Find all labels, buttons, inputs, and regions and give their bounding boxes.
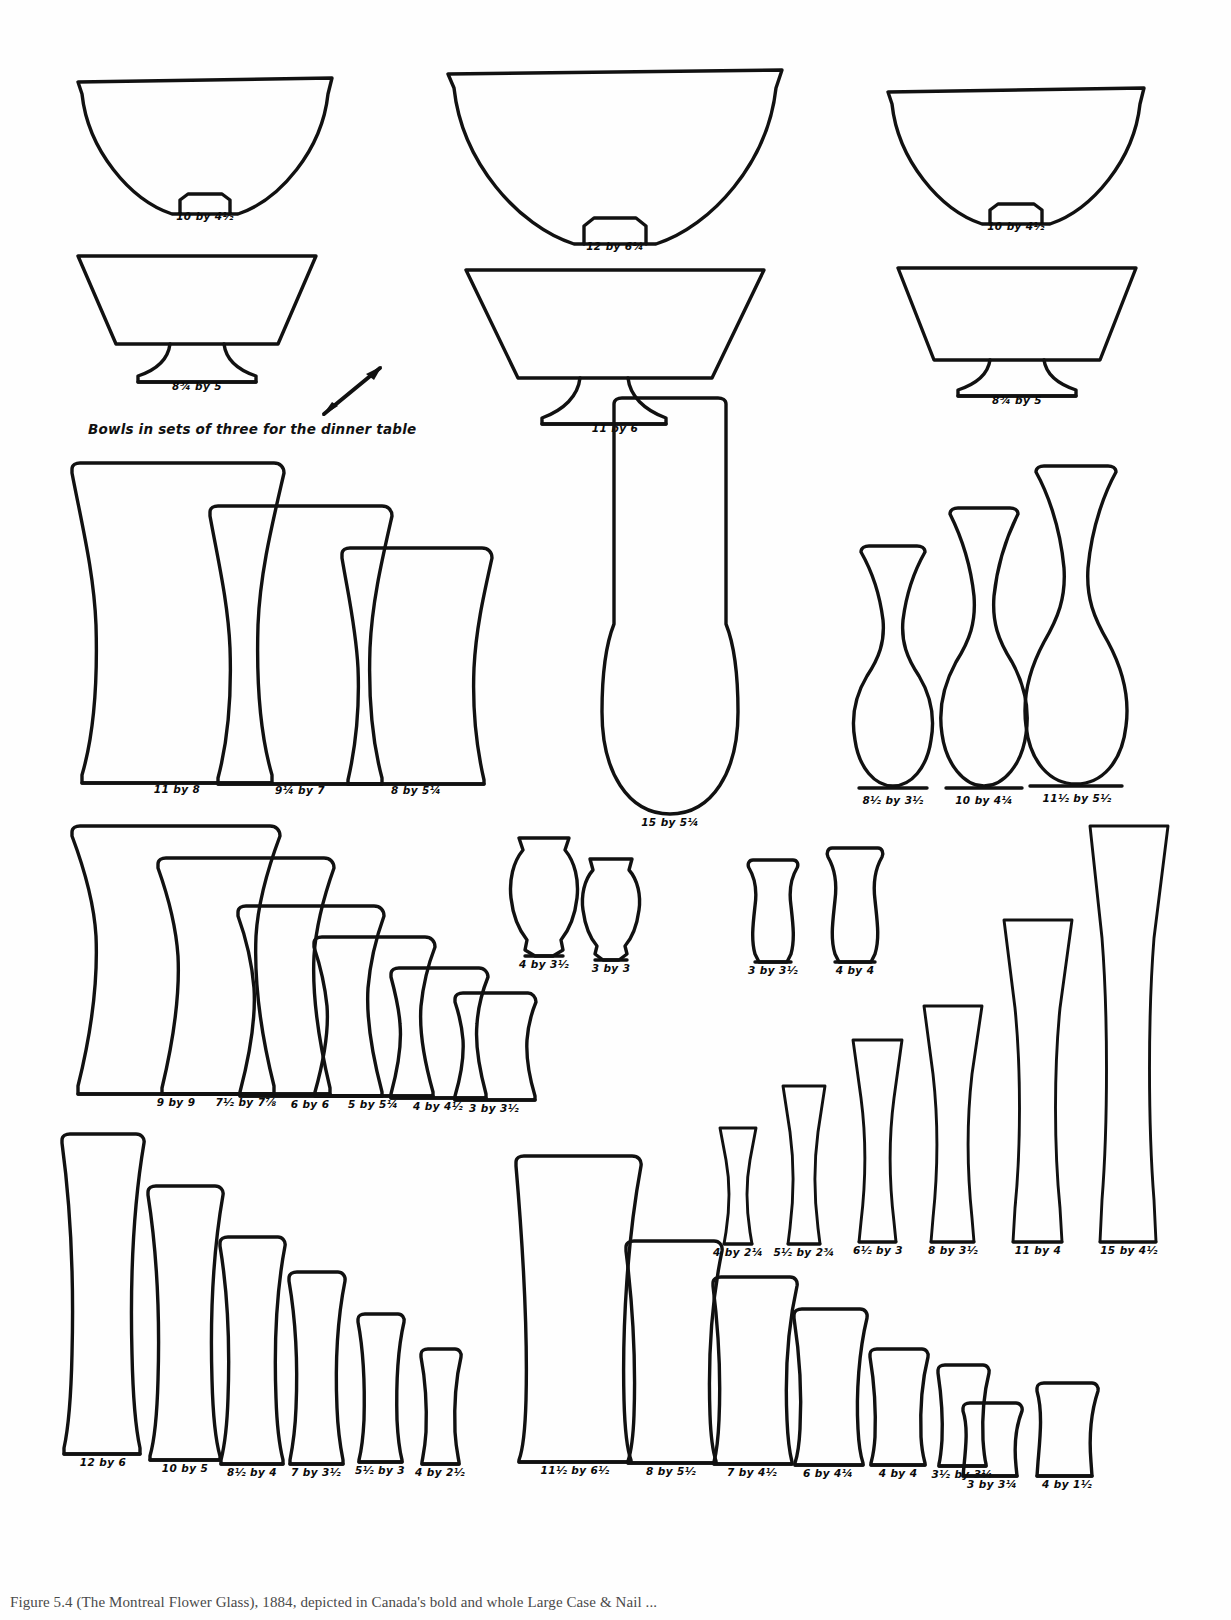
- vessel-spill: 15 by 4½: [1078, 818, 1180, 1256]
- vessel-bowl-footed: 8¾ by 5: [72, 248, 322, 388]
- vessel-label: 10 by 4½: [176, 210, 234, 222]
- vessel-label: 4 by 3½: [519, 958, 569, 970]
- vessel-label: 4 by 4: [879, 1467, 918, 1479]
- vessel-celery-large: 8 by 5¼: [332, 540, 500, 794]
- vessel-tumbler: 5½ by 3: [348, 1310, 412, 1468]
- vessel-label: 5½ by 2¾: [773, 1246, 834, 1258]
- vessel-label: 8 by 5½: [646, 1465, 696, 1477]
- vessel-label: 4 by 2½: [415, 1466, 465, 1478]
- vessel-slender: 11½ by 5½: [1018, 458, 1136, 802]
- vessel-bowl-round: 10 by 4½: [880, 82, 1152, 232]
- vessel-label: 8½ by 3½: [862, 794, 923, 806]
- vessel-label: 8½ by 4: [227, 1466, 277, 1478]
- vessel-small-pot: 3 by 3½: [735, 850, 811, 972]
- vessel-label: 10 by 4¼: [955, 794, 1013, 806]
- vessel-label: 8¾ by 5: [172, 380, 222, 392]
- vessel-squat: 4 by 1½: [1024, 1378, 1110, 1484]
- vessel-label: 11½ by 6½: [541, 1464, 610, 1476]
- vessel-label: 4 by 4: [836, 964, 875, 976]
- vessel-label: 9¼ by 7: [275, 784, 325, 796]
- vessel-small-pot: 4 by 3½: [505, 828, 583, 968]
- vessel-label: 12 by 6: [80, 1456, 126, 1468]
- vessel-label: 6 by 4¼: [803, 1467, 853, 1479]
- vessel-label: 10 by 4½: [987, 220, 1045, 232]
- vessel-label: 10 by 5: [162, 1462, 208, 1474]
- vessel-label: 15 by 5¼: [641, 816, 699, 828]
- vessel-bowl-round: 10 by 4½: [70, 72, 340, 222]
- vessel-label: 11 by 4: [1015, 1244, 1061, 1256]
- illustration-sheet: 10 by 4½ 8¾ by 5 Bowls in sets of three …: [0, 0, 1231, 1620]
- vessel-tumbler: 4 by 4: [860, 1345, 936, 1469]
- vessel-small-pot: 3 by 3: [577, 850, 645, 968]
- vessel-bowl-round: 12 by 6¼: [440, 62, 790, 254]
- figure-caption: Figure 5.4 (The Montreal Flower Glass), …: [10, 1594, 657, 1611]
- vessel-tall-center: 15 by 5¼: [600, 392, 740, 830]
- vessel-label: 3 by 3½: [469, 1102, 519, 1114]
- vessel-tumbler: 4 by 2½: [412, 1346, 468, 1468]
- vessel-label: 4 by 1½: [1042, 1478, 1092, 1490]
- vessel-label: 15 by 4½: [1100, 1244, 1158, 1256]
- vessel-label: 3 by 3¼: [967, 1478, 1017, 1490]
- pointer-arrow-icon: [318, 358, 398, 424]
- vessel-label: 7 by 4½: [727, 1466, 777, 1478]
- vessel-label: 6½ by 3: [853, 1244, 903, 1256]
- vessel-bowl-footed: 8¾ by 5: [892, 260, 1142, 402]
- vessel-spill: 11 by 4: [992, 912, 1084, 1256]
- vessel-squat: 3 by 3¼: [950, 1398, 1034, 1484]
- vessel-label: 11 by 8: [154, 783, 200, 795]
- vessel-label: 8 by 3½: [928, 1244, 978, 1256]
- vessel-label: 7 by 3½: [291, 1466, 341, 1478]
- vessel-spill: 8 by 3½: [912, 998, 994, 1256]
- vessel-label: 11½ by 5½: [1043, 792, 1112, 804]
- vessel-label: 3 by 3½: [748, 964, 798, 976]
- vessel-label: 12 by 6¼: [586, 240, 644, 252]
- vessel-slender: 8½ by 3½: [845, 540, 941, 802]
- vessel-spill: 5½ by 2¾: [772, 1078, 836, 1256]
- vessel-label: 8 by 5¼: [391, 784, 441, 796]
- vessel-small-pot: 4 by 4: [812, 838, 898, 972]
- vessel-label: 3 by 3: [592, 962, 631, 974]
- vessel-label: 8¾ by 5: [992, 394, 1042, 406]
- vessel-label: 5½ by 3: [355, 1464, 405, 1476]
- vessel-spill: 6½ by 3: [842, 1032, 914, 1256]
- vessel-jar: 3 by 3½: [448, 988, 540, 1110]
- vessel-tumbler: 7 by 3½: [278, 1268, 354, 1470]
